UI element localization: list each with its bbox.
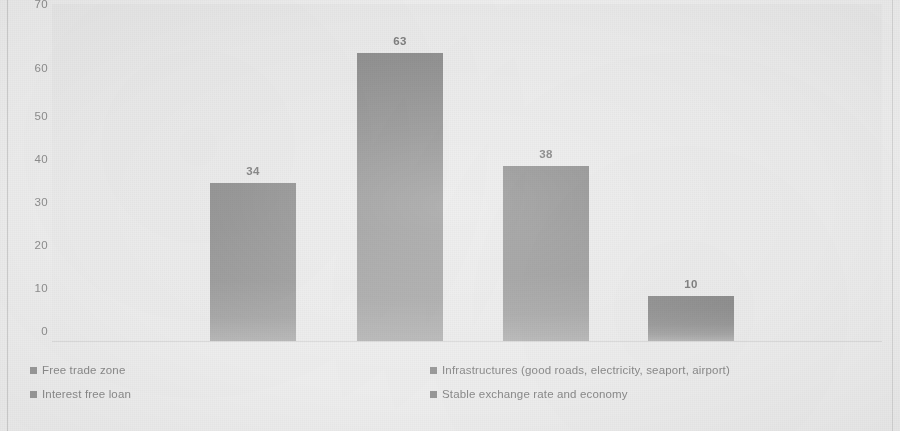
y-axis-tick-0: 0 xyxy=(14,325,48,337)
bar-stable-exchange-rate xyxy=(648,296,734,341)
y-axis-tick-30: 30 xyxy=(14,196,48,208)
legend-label: Infrastructures (good roads, electricity… xyxy=(442,364,730,376)
legend-swatch-icon xyxy=(430,367,437,374)
legend-label: Free trade zone xyxy=(42,364,125,376)
legend-swatch-icon xyxy=(30,391,37,398)
legend-swatch-icon xyxy=(430,391,437,398)
legend-swatch-icon xyxy=(30,367,37,374)
bar-infrastructures xyxy=(357,53,443,341)
y-axis-tick-20: 20 xyxy=(14,239,48,251)
bar-value-label-stable-exchange-rate: 10 xyxy=(648,278,734,290)
bar-chart: 70 60 50 40 30 20 10 0 34 63 38 10 Free … xyxy=(0,0,900,431)
legend-item-infrastructures[interactable]: Infrastructures (good roads, electricity… xyxy=(430,364,730,376)
legend-label: Interest free loan xyxy=(42,388,131,400)
legend-item-interest-free-loan[interactable]: Interest free loan xyxy=(30,388,131,400)
y-axis-tick-40: 40 xyxy=(14,153,48,165)
y-axis-tick-50: 50 xyxy=(14,110,48,122)
y-axis-tick-60: 60 xyxy=(14,62,48,74)
x-axis-baseline xyxy=(52,341,882,342)
legend-item-stable-exchange-rate[interactable]: Stable exchange rate and economy xyxy=(430,388,628,400)
bar-free-trade-zone xyxy=(210,183,296,341)
bar-value-label-interest-free-loan: 38 xyxy=(503,148,589,160)
y-axis-tick-70: 70 xyxy=(14,0,48,10)
y-axis-tick-10: 10 xyxy=(14,282,48,294)
plot-area xyxy=(52,4,882,342)
legend-label: Stable exchange rate and economy xyxy=(442,388,628,400)
chart-legend: Free trade zone Interest free loan Infra… xyxy=(22,360,882,422)
bar-value-label-free-trade-zone: 34 xyxy=(210,165,296,177)
bar-interest-free-loan xyxy=(503,166,589,341)
legend-item-free-trade-zone[interactable]: Free trade zone xyxy=(30,364,125,376)
bar-value-label-infrastructures: 63 xyxy=(357,35,443,47)
